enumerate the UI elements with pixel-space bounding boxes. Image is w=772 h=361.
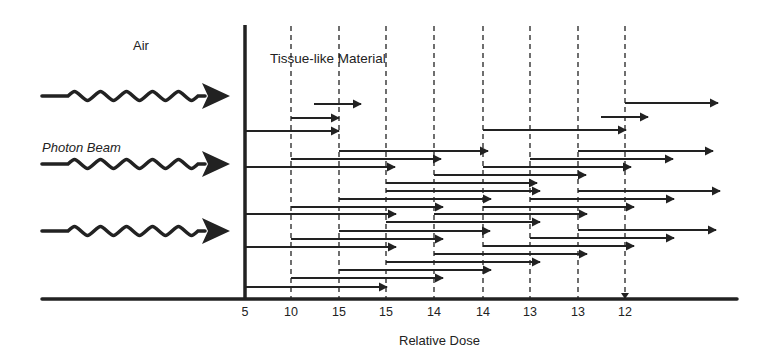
dose-tick-label: 13 bbox=[571, 305, 585, 319]
dose-tick-label: 15 bbox=[379, 305, 393, 319]
dose-tick-label: 13 bbox=[523, 305, 537, 319]
dose-tick-label: 14 bbox=[427, 305, 441, 319]
dose-tick-label: 12 bbox=[618, 305, 632, 319]
dose-tick-label: 5 bbox=[242, 305, 249, 319]
photon-wave-arrow bbox=[42, 160, 205, 169]
dose-tick-label: 15 bbox=[332, 305, 346, 319]
dose-tick-label: 10 bbox=[284, 305, 298, 319]
photon-wave-arrow bbox=[42, 227, 205, 236]
incident-photon-beams bbox=[42, 83, 230, 244]
dose-tick-label: 14 bbox=[476, 305, 490, 319]
depth-column-lines bbox=[291, 26, 629, 299]
photon-wave-arrow bbox=[42, 92, 205, 101]
secondary-electron-tracks bbox=[245, 103, 720, 287]
